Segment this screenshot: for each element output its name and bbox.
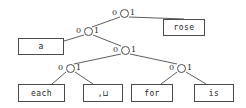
edge-n4r-to-for [161, 72, 177, 84]
leaf-box-for: for [131, 84, 173, 102]
edge-n4r-to-is [186, 72, 206, 84]
root-node [120, 9, 129, 18]
internal-node-2 [84, 27, 93, 36]
bit-label-n2-right: 1 [94, 27, 99, 35]
edge-n4l-to-each [52, 72, 66, 84]
leaf-box-a: a [18, 38, 64, 55]
leaf-box-rose: rose [163, 19, 205, 36]
bit-label-n2-left: 0 [76, 27, 81, 35]
internal-node-3 [121, 46, 130, 55]
bit-label-root-right: 1 [130, 9, 135, 17]
bit-label-n4l-left: 0 [58, 64, 63, 72]
bit-label-n4r-right: 1 [187, 64, 192, 72]
edge-n4l-to-comma [75, 72, 93, 84]
bit-label-root-left: 0 [112, 9, 117, 17]
bit-label-n4l-right: 1 [76, 64, 81, 72]
internal-node-4-right [177, 64, 186, 73]
bit-label-n4r-left: 0 [169, 64, 174, 72]
leaf-box-is: is [194, 84, 234, 102]
bit-label-n3-left: 0 [113, 46, 118, 54]
leaf-box-comma-space: ,⊔ [83, 84, 123, 102]
bit-label-n3-right: 1 [131, 46, 136, 54]
internal-node-4-left [66, 64, 75, 73]
edge-n2-to-a [64, 35, 84, 41]
binary-code-tree-figure: 0101010101 roseaeach,⊔foris [0, 0, 246, 108]
leaf-box-each: each [18, 84, 65, 102]
edge-n3-to-n4l [74, 54, 121, 64]
